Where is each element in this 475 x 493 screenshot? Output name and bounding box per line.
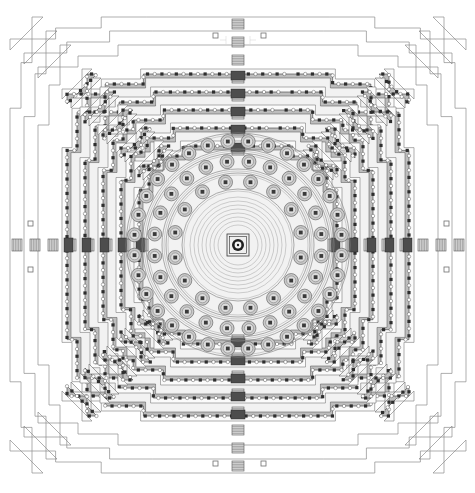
wall-medallion xyxy=(83,198,86,201)
wall-niche xyxy=(333,142,336,145)
wall-medallion xyxy=(148,128,151,131)
wall-medallion xyxy=(226,360,229,363)
wall-medallion xyxy=(325,360,328,363)
wall-medallion xyxy=(75,123,78,126)
wall-medallion xyxy=(119,296,122,299)
wall-medallion xyxy=(397,360,400,363)
wall-niche xyxy=(150,100,153,103)
wall-medallion xyxy=(83,270,86,273)
wall-medallion xyxy=(361,319,364,322)
wall-medallion xyxy=(65,271,68,274)
wall-medallion xyxy=(303,350,306,353)
wall-niche xyxy=(83,320,86,323)
wall-medallion xyxy=(389,256,392,259)
wall-medallion xyxy=(400,95,403,98)
wall-niche xyxy=(255,90,258,93)
wall-niche xyxy=(121,100,124,103)
architectural-plan-figure xyxy=(0,0,475,493)
stupa-core xyxy=(133,253,137,257)
wall-medallion xyxy=(83,212,86,215)
wall-medallion xyxy=(389,314,392,317)
wall-medallion xyxy=(163,149,166,152)
wall-medallion xyxy=(149,164,152,167)
wall-niche xyxy=(327,386,330,389)
plan-drawing-canvas xyxy=(0,0,475,493)
wall-medallion xyxy=(299,154,302,157)
wall-medallion xyxy=(283,72,286,75)
wall-niche xyxy=(175,154,178,157)
wall-medallion xyxy=(407,226,410,229)
wall-medallion xyxy=(315,326,318,329)
wall-niche xyxy=(383,394,386,397)
wall-medallion xyxy=(387,73,390,76)
wall-medallion xyxy=(331,100,334,103)
wall-medallion xyxy=(407,255,410,258)
wall-medallion xyxy=(379,361,382,364)
wall-niche xyxy=(83,306,86,309)
wall-niche xyxy=(93,157,96,160)
wall-niche xyxy=(361,160,364,163)
stupa-core xyxy=(158,275,162,279)
wall-medallion xyxy=(128,100,131,103)
stupa-core xyxy=(266,144,270,148)
wall-medallion xyxy=(137,167,140,170)
wall-niche xyxy=(353,266,356,269)
stupa-core xyxy=(204,165,208,169)
wall-niche xyxy=(198,90,201,93)
wall-medallion xyxy=(334,386,337,389)
wall-niche xyxy=(333,347,336,350)
wall-medallion xyxy=(369,366,372,369)
wall-medallion xyxy=(205,90,208,93)
wall-niche xyxy=(151,368,154,371)
wall-medallion xyxy=(357,124,360,127)
wall-niche xyxy=(355,386,358,389)
survey-marker xyxy=(28,221,33,226)
wall-niche xyxy=(379,354,382,357)
wall-medallion xyxy=(161,90,164,93)
wall-niche xyxy=(335,404,338,407)
wall-medallion xyxy=(343,321,346,324)
wall-niche xyxy=(65,206,68,209)
wall-niche xyxy=(161,154,164,157)
wall-medallion xyxy=(398,149,401,152)
terrace-gate xyxy=(231,374,245,383)
wall-niche xyxy=(293,126,296,129)
wall-niche xyxy=(319,90,322,93)
wall-medallion xyxy=(72,92,75,95)
wall-niche xyxy=(327,357,330,360)
wall-niche xyxy=(145,386,148,389)
survey-marker xyxy=(213,461,218,466)
wall-medallion xyxy=(332,164,335,167)
wall-niche xyxy=(90,72,93,75)
wall-niche xyxy=(134,146,137,149)
wall-medallion xyxy=(157,396,160,399)
wall-medallion xyxy=(315,150,318,153)
wall-medallion xyxy=(165,414,168,417)
wall-medallion xyxy=(325,164,328,167)
wall-medallion xyxy=(94,74,97,77)
wall-niche xyxy=(85,388,88,391)
wall-niche xyxy=(247,72,250,75)
wall-niche xyxy=(139,341,142,344)
wall-niche xyxy=(139,404,142,407)
wall-niche xyxy=(201,414,204,417)
wall-niche xyxy=(129,308,132,311)
wall-medallion xyxy=(397,346,400,349)
stupa-core xyxy=(144,194,148,198)
wall-medallion xyxy=(222,126,225,129)
wall-medallion xyxy=(342,334,345,337)
wall-medallion xyxy=(115,138,118,141)
wall-medallion xyxy=(380,414,383,417)
wall-niche xyxy=(216,414,219,417)
wall-niche xyxy=(83,219,86,222)
wall-niche xyxy=(83,291,86,294)
wall-medallion xyxy=(93,360,96,363)
wall-medallion xyxy=(144,368,147,371)
wall-niche xyxy=(361,327,364,330)
terrace-gate xyxy=(367,238,376,252)
wall-medallion xyxy=(353,287,356,290)
stupa-core xyxy=(336,213,340,217)
wall-medallion xyxy=(387,88,390,91)
wall-medallion xyxy=(406,385,409,388)
wall-niche xyxy=(129,322,132,325)
